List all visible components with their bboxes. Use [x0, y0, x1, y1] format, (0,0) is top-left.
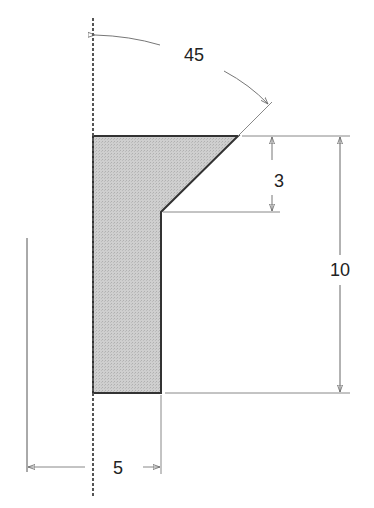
total-height-label: 10 [330, 261, 350, 279]
chamfer-extension [238, 102, 272, 136]
angle-label: 45 [184, 46, 204, 64]
profile-shape [93, 136, 238, 393]
technical-drawing [0, 0, 374, 508]
chamfer-height-label: 3 [274, 172, 284, 190]
angle-arc-lower [224, 71, 268, 104]
width-label: 5 [113, 459, 123, 477]
angle-arc-upper [95, 35, 160, 45]
